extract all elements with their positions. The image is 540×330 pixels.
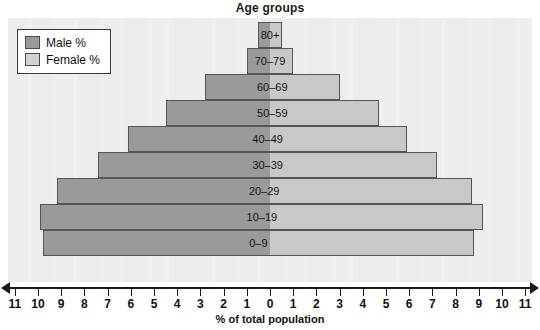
chart-legend: Male %Female % <box>17 29 111 74</box>
x-axis-tick <box>479 289 480 296</box>
legend-label: Male % <box>46 36 86 50</box>
x-axis-tick <box>108 289 109 296</box>
x-axis-tick <box>247 289 248 296</box>
x-axis-tick <box>316 289 317 296</box>
x-axis-tick <box>293 289 294 296</box>
x-axis-tick <box>270 289 271 296</box>
bar-male[interactable] <box>205 74 270 100</box>
legend-swatch-female-icon <box>25 53 40 66</box>
x-axis-tick <box>363 289 364 296</box>
x-axis-tick <box>177 289 178 296</box>
bar-male[interactable] <box>57 178 270 204</box>
bar-female[interactable] <box>270 126 407 152</box>
legend-swatch-male-icon <box>25 36 40 49</box>
x-axis-tick <box>224 289 225 296</box>
x-axis-tick <box>38 289 39 296</box>
bar-female[interactable] <box>270 230 474 256</box>
x-axis-tick <box>15 289 16 296</box>
bar-male[interactable] <box>128 126 270 152</box>
legend-item[interactable]: Male % <box>25 34 100 51</box>
x-axis-tick <box>432 289 433 296</box>
bar-row: 0–9 <box>0 230 540 256</box>
axis-arrow-left-icon <box>1 282 10 294</box>
x-axis-tick <box>84 289 85 296</box>
bar-female[interactable] <box>270 178 472 204</box>
chart-title: Age groups <box>0 1 540 15</box>
bar-row: 20–29 <box>0 178 540 204</box>
x-axis-tick-label: 11 <box>510 297 540 311</box>
bar-female[interactable] <box>270 204 483 230</box>
bar-male[interactable] <box>247 48 270 74</box>
bar-male[interactable] <box>40 204 270 230</box>
x-axis-tick <box>200 289 201 296</box>
legend-item[interactable]: Female % <box>25 51 100 68</box>
bar-row: 40–49 <box>0 126 540 152</box>
axis-arrow-right-icon <box>530 282 539 294</box>
x-axis-tick <box>525 289 526 296</box>
x-axis-title: % of total population <box>0 313 540 325</box>
bar-female[interactable] <box>270 152 437 178</box>
x-axis-tick <box>386 289 387 296</box>
bar-female[interactable] <box>270 48 293 74</box>
x-axis-tick <box>131 289 132 296</box>
population-pyramid-chart: Age groups 80+70–7960–6950–5940–4930–392… <box>0 0 540 330</box>
bar-male[interactable] <box>166 100 270 126</box>
bar-row: 60–69 <box>0 74 540 100</box>
x-axis-tick <box>154 289 155 296</box>
bar-female[interactable] <box>270 74 340 100</box>
bar-row: 50–59 <box>0 100 540 126</box>
bar-female[interactable] <box>270 22 282 48</box>
bar-male[interactable] <box>258 22 270 48</box>
bar-male[interactable] <box>98 152 270 178</box>
bar-row: 10–19 <box>0 204 540 230</box>
x-axis-tick <box>61 289 62 296</box>
legend-label: Female % <box>46 53 100 67</box>
bar-female[interactable] <box>270 100 379 126</box>
x-axis-tick <box>502 289 503 296</box>
bar-male[interactable] <box>43 230 270 256</box>
x-axis-tick <box>340 289 341 296</box>
x-axis-tick <box>456 289 457 296</box>
x-axis-tick <box>409 289 410 296</box>
bar-row: 30–39 <box>0 152 540 178</box>
